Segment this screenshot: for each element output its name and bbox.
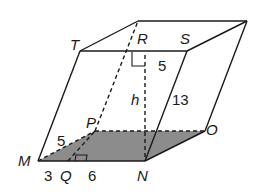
- prism-diagram: T R S 5 h 13 P O 5 M 3 Q 6 N: [0, 0, 255, 192]
- label-Q: Q: [60, 167, 72, 184]
- label-N: N: [137, 167, 148, 184]
- label-T: T: [70, 36, 81, 53]
- label-base-5: 5: [57, 132, 65, 149]
- label-6: 6: [88, 167, 96, 184]
- edge-P-top: [95, 21, 138, 131]
- label-13: 13: [172, 91, 189, 108]
- label-h: h: [131, 91, 139, 108]
- label-R: R: [137, 30, 148, 47]
- label-O: O: [206, 121, 218, 138]
- edge-T-top: [80, 21, 138, 51]
- label-S: S: [180, 30, 190, 47]
- edge-O-top: [205, 21, 247, 131]
- label-top-5: 5: [158, 57, 166, 74]
- label-3: 3: [44, 167, 52, 184]
- label-M: M: [18, 152, 31, 169]
- right-angle-mark-top: [132, 52, 145, 66]
- label-P: P: [86, 114, 96, 131]
